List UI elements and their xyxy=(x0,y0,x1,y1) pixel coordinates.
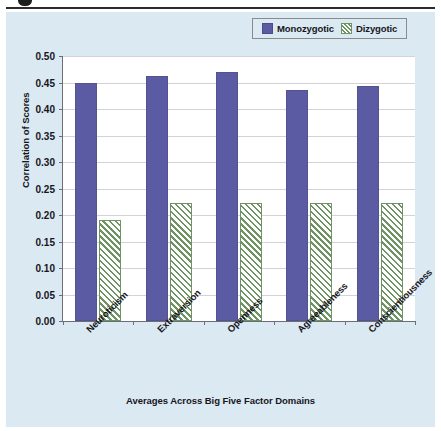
bar-group xyxy=(204,56,274,321)
y-axis-tick-label: 0.05 xyxy=(36,289,55,300)
x-axis-tick-mark xyxy=(345,321,346,325)
x-axis-tick-mark xyxy=(415,321,416,325)
legend-entry-monozygotic: Monozygotic xyxy=(262,23,334,34)
legend-label: Monozygotic xyxy=(277,23,334,34)
x-axis-title: Averages Across Big Five Factor Domains xyxy=(0,395,441,406)
figure-root: MonozygoticDizygotic Correlation of Scor… xyxy=(0,0,441,431)
bar-monozygotic-agreeableness xyxy=(286,90,308,321)
y-axis-tick-label: 0.50 xyxy=(36,51,55,62)
x-axis-tick-mark xyxy=(274,321,275,325)
y-axis-title: Correlation of Scores xyxy=(20,92,31,188)
y-axis-tick-label: 0.00 xyxy=(36,316,55,327)
hatched-green-swatch xyxy=(341,23,352,34)
y-axis-tick-label: 0.40 xyxy=(36,104,55,115)
y-axis-tick-label: 0.10 xyxy=(36,263,55,274)
plot-area: 0.000.050.100.150.200.250.300.350.400.45… xyxy=(62,56,415,322)
y-axis-tick-label: 0.35 xyxy=(36,130,55,141)
x-axis-tick-mark xyxy=(63,321,64,325)
bar-monozygotic-neuroticism xyxy=(75,83,97,322)
bar-monozygotic-extraversion xyxy=(146,76,168,321)
legend-label: Dizygotic xyxy=(356,23,397,34)
legend-entry-dizygotic: Dizygotic xyxy=(341,23,397,34)
top-horizontal-rule xyxy=(6,7,435,9)
y-axis-tick-label: 0.15 xyxy=(36,236,55,247)
bar-monozygotic-conscientiousness xyxy=(357,86,379,321)
page-ornament-glyph xyxy=(18,0,32,6)
bar-group xyxy=(133,56,203,321)
x-axis-tick-mark xyxy=(204,321,205,325)
bar-group xyxy=(274,56,344,321)
y-axis-tick-label: 0.45 xyxy=(36,77,55,88)
chart-legend: MonozygoticDizygotic xyxy=(252,18,407,39)
y-axis-tick-label: 0.30 xyxy=(36,157,55,168)
bar-group xyxy=(345,56,415,321)
solid-purple-swatch xyxy=(262,23,273,34)
x-axis-tick-mark xyxy=(133,321,134,325)
bar-monozygotic-openness xyxy=(216,72,238,321)
y-axis-tick-label: 0.25 xyxy=(36,183,55,194)
y-axis-tick-label: 0.20 xyxy=(36,210,55,221)
bar-group xyxy=(63,56,133,321)
